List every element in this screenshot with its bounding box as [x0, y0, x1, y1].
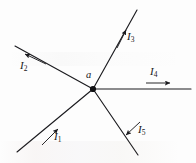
current-label-I4: I4 [150, 66, 157, 77]
junction-node-dot [90, 86, 96, 92]
junction-node-label: a [86, 70, 91, 81]
branch-lines [15, 10, 191, 155]
current-label-I1: I1 [54, 131, 61, 142]
current-junction-figure: a I1 I2 I3 I4 I5 [0, 0, 196, 163]
branch-line-I3 [93, 10, 137, 89]
current-label-I4-subscript: 4 [154, 70, 158, 79]
current-label-I2: I2 [20, 60, 27, 71]
current-arrow-I3 [117, 30, 126, 48]
current-label-I3-subscript: 3 [131, 35, 135, 44]
current-label-I1-subscript: 1 [58, 135, 62, 144]
current-label-I5-subscript: 5 [142, 128, 146, 137]
branch-line-I1 [17, 89, 93, 152]
current-arrow-I2 [25, 54, 46, 64]
current-label-I5: I5 [138, 124, 145, 135]
branch-line-I5 [93, 89, 138, 155]
current-label-I2-subscript: 2 [24, 64, 28, 73]
circuit-diagram-canvas [0, 0, 196, 163]
current-label-I3: I3 [127, 31, 134, 42]
